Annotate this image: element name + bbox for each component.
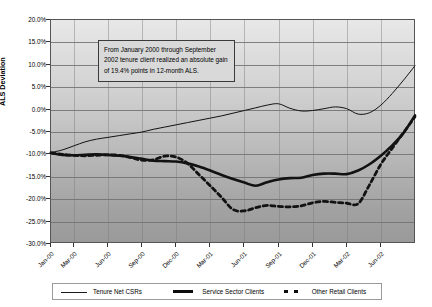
y-axis-tick-label: -5.0%: [0, 128, 46, 135]
x-axis-tick-label: Jun-00: [79, 250, 112, 283]
y-axis-tick-label: -30.0%: [0, 240, 46, 247]
x-axis-tick-mark: [312, 243, 313, 247]
legend-label: Other Retail Clients: [312, 288, 367, 295]
x-axis-tick-mark: [141, 243, 142, 247]
legend-item-service-sector-clients: Service Sector Clients: [162, 287, 271, 297]
dashed-line-swatch-icon: [280, 287, 306, 297]
y-axis-tick-label: 5.0%: [0, 83, 46, 90]
legend-label: Service Sector Clients: [202, 288, 264, 295]
annotation-callout: From January 2000 through September 2002…: [98, 40, 235, 82]
x-axis-tick-mark: [278, 243, 279, 247]
x-axis-tick-label: Dec-00: [147, 250, 180, 283]
x-axis-tick-mark: [209, 243, 210, 247]
chart-legend: Tenure Net CSRs Service Sector Clients O…: [52, 283, 382, 300]
y-axis-tick-label: 0.0%: [0, 105, 46, 112]
series-line-service-sector-clients: [51, 115, 415, 185]
x-axis-tick-label: Dec-01: [283, 250, 316, 283]
x-axis-tick-mark: [380, 243, 381, 247]
legend-label: Tenure Net CSRs: [93, 288, 142, 295]
x-axis-tick-label: Mar-01: [181, 250, 214, 283]
line-swatch-icon: [170, 287, 196, 297]
x-axis-tick-label: Sep-01: [249, 250, 282, 283]
legend-item-other-retail-clients: Other Retail Clients: [272, 287, 381, 297]
x-axis-tick-label: Jun-02: [352, 250, 385, 283]
x-axis-tick-label: Sep-00: [113, 250, 146, 283]
legend-item-tenure-net-csrs: Tenure Net CSRs: [53, 287, 162, 297]
x-axis-tick-mark: [243, 243, 244, 247]
x-axis-tick-mark: [107, 243, 108, 247]
y-axis-tick-label: -20.0%: [0, 195, 46, 202]
y-axis-tick-label: 15.0%: [0, 38, 46, 45]
x-axis-tick-mark: [175, 243, 176, 247]
x-axis-tick-mark: [50, 243, 51, 247]
x-axis-tick-mark: [346, 243, 347, 247]
chart-container: ALS Deviation 20.0%15.0%10.0%5.0%0.0%-5.…: [0, 0, 432, 307]
y-axis-tick-label: -25.0%: [0, 217, 46, 224]
y-axis-tick-label: 10.0%: [0, 60, 46, 67]
series-line-other-retail-clients: [51, 117, 415, 211]
y-axis-tick-label: -10.0%: [0, 150, 46, 157]
y-axis-tick-label: 20.0%: [0, 16, 46, 23]
line-swatch-icon: [61, 287, 87, 297]
y-axis-tick-label: -15.0%: [0, 172, 46, 179]
x-axis-tick-label: Mar-02: [317, 250, 350, 283]
x-axis-tick-label: Jun-01: [215, 250, 248, 283]
x-axis-tick-mark: [73, 243, 74, 247]
